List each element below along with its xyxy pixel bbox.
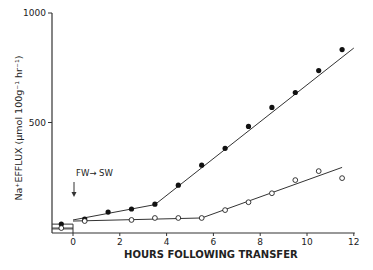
data-point-open: [270, 191, 275, 196]
x-tick-label: 0: [70, 237, 76, 247]
data-point-filled: [152, 202, 157, 207]
x-tick-label: 6: [211, 237, 217, 247]
chart: 5001000024681012HOURS FOLLOWING TRANSFER…: [0, 0, 373, 270]
data-point-filled: [340, 47, 345, 52]
data-point-open: [293, 178, 298, 183]
data-point-open: [340, 176, 345, 181]
arrowhead-icon: [72, 192, 77, 197]
x-tick-label: 10: [301, 237, 313, 247]
data-point-filled: [223, 146, 228, 151]
data-point-open: [176, 216, 181, 221]
data-point-open: [246, 200, 251, 205]
data-point-filled: [316, 68, 321, 73]
data-point-filled: [269, 105, 274, 110]
transfer-annotation: FW→ SW: [76, 168, 114, 178]
x-tick-label: 2: [117, 237, 123, 247]
x-tick-label: 8: [257, 237, 263, 247]
data-point-open: [199, 216, 204, 221]
fit-line: [155, 48, 354, 205]
data-point-filled: [176, 183, 181, 188]
data-point-open: [59, 226, 64, 231]
data-point-filled: [246, 124, 251, 129]
data-point-open: [223, 208, 228, 213]
x-axis-title: HOURS FOLLOWING TRANSFER: [124, 249, 298, 260]
data-point-open: [316, 169, 321, 174]
data-point-filled: [106, 209, 111, 214]
data-point-open: [153, 216, 158, 221]
x-tick-label: 12: [348, 237, 359, 247]
y-tick-label: 500: [29, 118, 46, 128]
y-tick-label: 1000: [23, 8, 46, 18]
data-point-filled: [129, 206, 134, 211]
data-point-filled: [199, 163, 204, 168]
data-point-open: [129, 218, 134, 223]
data-point-open: [82, 219, 87, 224]
x-tick-label: 4: [164, 237, 170, 247]
data-point-filled: [293, 90, 298, 95]
fit-line: [73, 218, 202, 221]
y-axis-title: Na⁺EFFLUX (μmol 100g⁻¹ hr⁻¹): [13, 55, 24, 200]
